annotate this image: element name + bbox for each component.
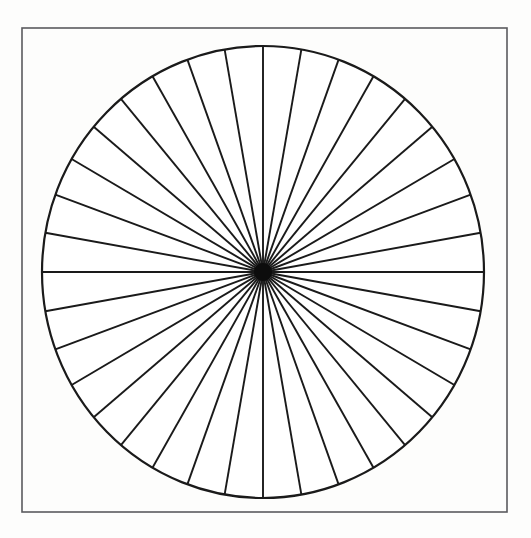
radial-sector-diagram bbox=[0, 0, 531, 538]
figure-canvas: Circle divided into radial sectors A thi… bbox=[0, 0, 531, 538]
center-hub-dot bbox=[254, 263, 272, 281]
